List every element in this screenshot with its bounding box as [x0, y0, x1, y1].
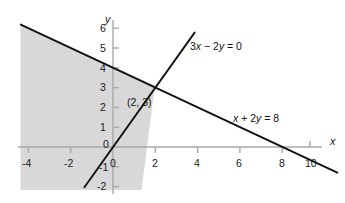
y-tick-label-4: 4 [100, 63, 106, 74]
y-tick-label-1: 1 [100, 122, 106, 133]
x-tick-label-10: 10 [305, 158, 317, 169]
x-tick-label-2: 2 [152, 158, 158, 169]
eq2-rhs: = 8 [261, 112, 279, 124]
y-tick-label-6: 6 [100, 23, 106, 34]
graph-figure: y x -4 -2 0 2 4 6 8 10 6 5 4 3 2 1 0 -1 … [0, 0, 345, 203]
eq1-rhs: = 0 [224, 40, 242, 52]
x-tick-label-8: 8 [279, 158, 285, 169]
y-tick-label--1: -1 [99, 162, 108, 173]
eq1-operator: − [201, 40, 213, 52]
x-tick-label--2: -2 [64, 158, 73, 169]
y-tick-label-3: 3 [100, 82, 106, 93]
equation-label-line2: x + 2y = 8 [233, 113, 279, 124]
y-tick-label-5: 5 [100, 43, 106, 54]
x-tick-label-6: 6 [236, 158, 242, 169]
plot-canvas [0, 0, 345, 203]
x-tick-label-0: 0 [110, 158, 116, 169]
x-tick-label--4: -4 [22, 158, 31, 169]
y-tick-label-2: 2 [100, 102, 106, 113]
y-tick-label-0: 0 [103, 139, 109, 150]
eq2-operator: + [238, 112, 250, 124]
equation-label-line1: 3x − 2y = 0 [190, 41, 242, 52]
y-tick-label--2: -2 [97, 181, 106, 192]
x-tick-label-4: 4 [194, 158, 200, 169]
x-axis-label: x [330, 136, 336, 147]
intersection-point-label: (2, 3) [127, 97, 152, 108]
